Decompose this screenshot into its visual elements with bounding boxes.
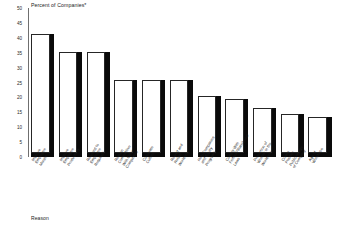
chart-page: Percent of Companies* 051015202530354045…	[0, 0, 346, 228]
y-axis-tick: 15	[17, 110, 22, 115]
y-axis-tick: 10	[17, 125, 22, 130]
x-axis-tick-labels: ImproveEmployeeMoraleImproveEmployeeProd…	[28, 160, 334, 206]
y-axis-tick: 0	[19, 155, 22, 160]
y-axis-tick: 50	[17, 6, 22, 11]
x-axis-title: Reason	[31, 215, 49, 221]
y-axis-tick: 25	[17, 80, 22, 85]
y-axis-tick: 40	[17, 35, 22, 40]
y-axis-tick-labels: 05101520253035404550	[0, 8, 28, 157]
y-axis-tick: 20	[17, 95, 22, 100]
y-axis-tick: 45	[17, 20, 22, 25]
y-axis-tick: 30	[17, 65, 22, 70]
y-axis-tick: 5	[19, 140, 22, 145]
y-axis-tick: 35	[17, 50, 22, 55]
